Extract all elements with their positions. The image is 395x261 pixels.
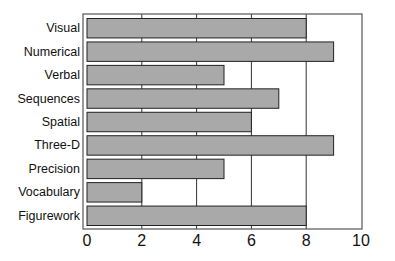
- bar-verbal: [87, 65, 224, 84]
- category-label: Visual: [46, 21, 80, 35]
- category-label: Precision: [29, 162, 80, 176]
- category-label: Figurework: [18, 209, 80, 223]
- x-tick-label: 6: [247, 232, 256, 250]
- x-tick-label: 10: [352, 232, 370, 250]
- x-tick-label: 0: [83, 232, 92, 250]
- category-label: Sequences: [17, 92, 80, 106]
- bar-three-d: [87, 136, 334, 155]
- bar-sequences: [87, 89, 279, 108]
- x-tick-label: 2: [137, 232, 146, 250]
- bar-spatial: [87, 112, 251, 131]
- bar-chart: VisualNumericalVerbalSequencesSpatialThr…: [0, 0, 395, 261]
- category-label: Numerical: [24, 45, 80, 59]
- bar-visual: [87, 19, 306, 38]
- category-label: Verbal: [45, 68, 80, 82]
- category-label: Spatial: [42, 115, 80, 129]
- bar-precision: [87, 159, 224, 178]
- category-label: Three-D: [34, 138, 80, 152]
- bar-figurework: [87, 206, 306, 225]
- x-tick-label: 4: [192, 232, 201, 250]
- x-tick-label: 8: [302, 232, 311, 250]
- category-label: Vocabulary: [18, 185, 80, 199]
- bar-numerical: [87, 42, 334, 61]
- bar-vocabulary: [87, 183, 142, 202]
